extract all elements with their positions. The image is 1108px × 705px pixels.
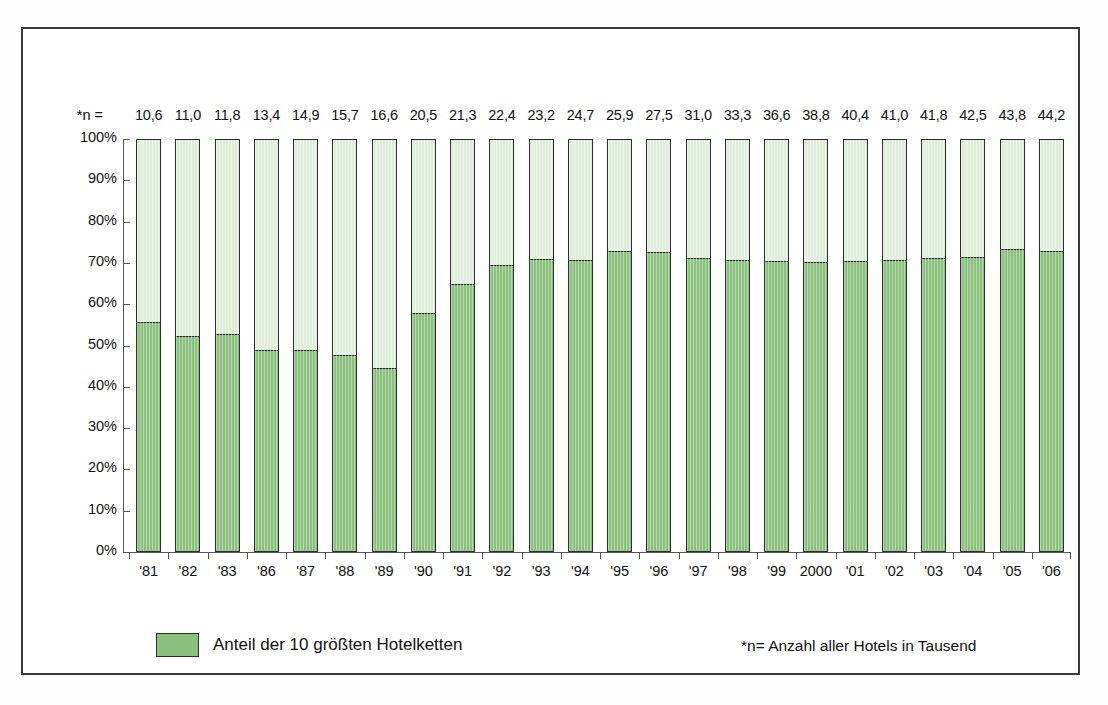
n-annotation: 15,7 (325, 107, 364, 129)
x-axis-tick-label: '96 (639, 563, 678, 585)
bar-group (953, 139, 992, 552)
n-annotation: 24,7 (561, 107, 600, 129)
x-axis-labels: '81'82'83'86'87'88'89'90'91'92'93'94'95'… (129, 563, 1071, 585)
x-axis-tick (404, 552, 443, 560)
stacked-bar (529, 139, 554, 552)
y-axis-tick-label: 100% (80, 130, 117, 145)
n-annotation-row: 10,611,011,813,414,915,716,620,521,322,4… (129, 107, 1071, 129)
n-prefix-label: *n = (77, 107, 107, 123)
x-axis-tick (639, 552, 678, 560)
bar-segment-primary (333, 355, 356, 551)
bar-segment-primary (294, 350, 317, 551)
x-axis-tick (796, 552, 835, 560)
x-axis-tick-label: '83 (208, 563, 247, 585)
bar-group (914, 139, 953, 552)
bar-segment-primary (647, 252, 670, 551)
bar-group (1032, 139, 1071, 552)
n-annotation: 41,8 (914, 107, 953, 129)
n-annotation: 20,5 (404, 107, 443, 129)
bar-group (993, 139, 1032, 552)
stacked-bar (1000, 139, 1025, 552)
bar-segment-primary (922, 258, 945, 551)
stacked-bar (332, 139, 357, 552)
x-axis-tick (247, 552, 286, 560)
n-annotation: 14,9 (286, 107, 325, 129)
stacked-bar (372, 139, 397, 552)
x-axis-tick-label: '05 (993, 563, 1032, 585)
bar-segment-primary (569, 260, 592, 551)
n-annotation: 42,5 (953, 107, 992, 129)
stacked-bar (725, 139, 750, 552)
stacked-bar (882, 139, 907, 552)
bar-segment-primary (490, 265, 513, 551)
bar-group (482, 139, 521, 552)
footnote-text: *n= Anzahl aller Hotels in Tausend (741, 637, 976, 655)
n-annotation: 40,4 (836, 107, 875, 129)
chart-page: *n = 10,611,011,813,414,915,716,620,521,… (0, 0, 1108, 705)
x-axis-tick-label: '06 (1032, 563, 1071, 585)
x-axis-tick-label: '89 (365, 563, 404, 585)
bar-segment-primary (687, 258, 710, 551)
bar-group (836, 139, 875, 552)
x-axis-tick-label: '01 (836, 563, 875, 585)
x-axis-tick (365, 552, 404, 560)
x-axis-tick-label: '91 (443, 563, 482, 585)
bar-segment-primary (804, 262, 827, 551)
bar-group (679, 139, 718, 552)
bar-group (639, 139, 678, 552)
stacked-bar (254, 139, 279, 552)
n-annotation: 31,0 (679, 107, 718, 129)
x-axis-tick-label: '02 (875, 563, 914, 585)
stacked-bar (764, 139, 789, 552)
x-axis-tick-label: '95 (600, 563, 639, 585)
x-axis-tick (325, 552, 364, 560)
x-axis-tick-label: '87 (286, 563, 325, 585)
stacked-bar (568, 139, 593, 552)
bar-group (168, 139, 207, 552)
bar-segment-primary (844, 261, 867, 551)
stacked-bar (450, 139, 475, 552)
n-annotation: 25,9 (600, 107, 639, 129)
bar-segment-primary (216, 334, 239, 551)
bar-segment-primary (961, 257, 984, 551)
bar-group (247, 139, 286, 552)
x-axis-tick (836, 552, 875, 560)
bar-group (522, 139, 561, 552)
y-axis-tick-label: 60% (88, 295, 117, 310)
n-annotation: 36,6 (757, 107, 796, 129)
stacked-bar (803, 139, 828, 552)
x-axis-tick (522, 552, 561, 560)
bar-segment-primary (137, 322, 160, 551)
bar-segment-primary (608, 251, 631, 551)
n-annotation: 33,3 (718, 107, 757, 129)
x-axis-tick (953, 552, 992, 560)
stacked-bar (686, 139, 711, 552)
x-axis-tick (208, 552, 247, 560)
bar-group (404, 139, 443, 552)
bar-segment-primary (412, 313, 435, 551)
bar-series-container (129, 139, 1071, 552)
x-axis-tick (757, 552, 796, 560)
x-axis-tick (718, 552, 757, 560)
n-annotation: 11,0 (168, 107, 207, 129)
y-axis-tick-label: 40% (88, 378, 117, 393)
x-axis-tick-label: '88 (325, 563, 364, 585)
x-axis-tick-label: '99 (757, 563, 796, 585)
stacked-bar (607, 139, 632, 552)
x-axis-tick (286, 552, 325, 560)
y-axis-tick-label: 90% (88, 171, 117, 186)
y-axis-tick-label: 30% (88, 419, 117, 434)
y-axis-tick-label: 20% (88, 460, 117, 475)
n-annotation: 27,5 (639, 107, 678, 129)
bar-segment-primary (176, 336, 199, 551)
stacked-bar (1039, 139, 1064, 552)
x-axis-tick (443, 552, 482, 560)
x-axis-tick (914, 552, 953, 560)
bar-segment-primary (883, 260, 906, 551)
n-annotation: 22,4 (482, 107, 521, 129)
bar-group (561, 139, 600, 552)
x-axis-tick (679, 552, 718, 560)
stacked-bar (411, 139, 436, 552)
x-axis-tick-label: '82 (168, 563, 207, 585)
x-axis-tick-label: 2000 (796, 563, 835, 585)
